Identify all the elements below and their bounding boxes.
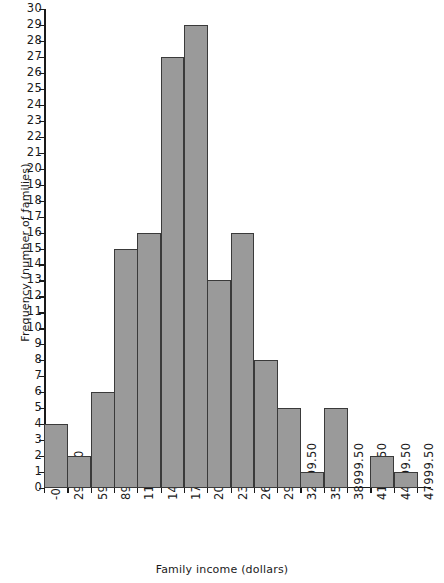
x-tick-mark [91,488,92,493]
x-tick-mark [137,488,138,493]
bar [44,424,68,488]
y-tick-label: 30 [27,1,42,15]
bar [394,472,418,488]
bar [300,472,324,488]
y-tick-label: 27 [27,49,42,63]
y-tick-label: 15 [27,241,42,255]
y-tick-label: 20 [27,161,42,175]
y-tick-label: 13 [27,272,42,286]
y-tick-label: 22 [27,129,42,143]
y-tick-label: 14 [27,256,42,270]
y-tick-label: 29 [27,17,42,31]
bar [67,456,91,488]
x-tick-mark [184,488,185,493]
y-tick-label: 11 [27,304,42,318]
y-tick-label: 6 [34,384,42,398]
y-tick-label: 4 [34,416,42,430]
y-tick-label: 25 [27,81,42,95]
x-tick-mark [324,488,325,493]
x-tick-mark [207,488,208,493]
y-tick-label: 12 [27,288,42,302]
y-tick-label: 7 [34,368,42,382]
bar [184,25,208,488]
x-tick-mark [277,488,278,493]
bar [231,233,255,488]
bar [324,408,348,488]
y-tick-label: 8 [34,352,42,366]
x-tick-mark [44,488,45,493]
x-tick-mark [114,488,115,493]
x-tick-mark [394,488,395,493]
histogram-figure: Frequency (number of families) 012345678… [0,0,444,583]
y-tick-label: 19 [27,177,42,191]
y-tick-label: 28 [27,33,42,47]
x-tick-mark [347,488,348,493]
y-tick-label: 2 [34,448,42,462]
y-tick-label: 3 [34,432,42,446]
x-tick-mark [161,488,162,493]
x-tick-mark [417,488,418,493]
y-tick-label: 0 [34,480,42,494]
x-axis-title: Family income (dollars) [0,563,444,576]
y-tick-label: 16 [27,225,42,239]
y-tick-label: 24 [27,97,42,111]
x-tick-label: 38999.50 [352,443,366,500]
y-tick-label: 9 [34,336,42,350]
x-tick-mark [300,488,301,493]
bar [114,249,138,489]
y-tick-label: 26 [27,65,42,79]
y-tick-label: 1 [34,464,42,478]
y-tick-label: 23 [27,113,42,127]
bar [277,408,301,488]
x-tick-mark [67,488,68,493]
plot-area: 0123456789101112131415161718192021222324… [44,9,431,488]
x-tick-mark [254,488,255,493]
bar [91,392,115,488]
bar [370,456,394,488]
x-tick-label: 47999.50 [422,443,436,500]
bar [254,360,278,488]
y-tick-label: 10 [27,320,42,334]
y-tick-label: 18 [27,193,42,207]
y-tick-label: 17 [27,209,42,223]
y-tick-label: 21 [27,145,42,159]
bar [137,233,161,488]
x-tick-mark [231,488,232,493]
y-tick-label: 5 [34,400,42,414]
bar [161,57,185,488]
y-axis-line [44,9,46,488]
bar [207,280,231,488]
x-tick-mark [370,488,371,493]
